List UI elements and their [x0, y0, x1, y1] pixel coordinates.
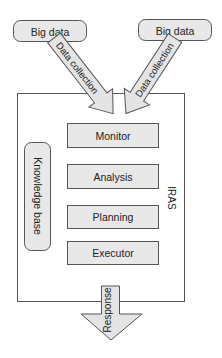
big-data-label-right: Big data [156, 25, 195, 37]
stage-executor: Executor [68, 242, 159, 265]
planning-label: Planning [93, 211, 134, 223]
executor-label: Executor [92, 247, 134, 259]
iras-diagram: Big data Big data Data collection Data c… [0, 0, 222, 358]
stage-monitor: Monitor [68, 124, 159, 148]
big-data-label-left: Big data [31, 26, 70, 38]
knowledge-base: Knowledge base [25, 143, 51, 251]
monitor-label: Monitor [95, 130, 131, 142]
analysis-label: Analysis [93, 171, 132, 183]
knowledge-base-label: Knowledge base [32, 157, 44, 235]
big-data-source-right: Big data [139, 20, 212, 41]
stage-analysis: Analysis [68, 165, 159, 189]
data-collection-label-right: Data collection [133, 41, 176, 99]
data-collection-label-left: Data collection [54, 40, 101, 96]
iras-label: IRAS [166, 186, 177, 210]
response-label: Response [102, 287, 113, 332]
stage-planning: Planning [68, 206, 159, 229]
big-data-source-left: Big data [14, 21, 87, 42]
